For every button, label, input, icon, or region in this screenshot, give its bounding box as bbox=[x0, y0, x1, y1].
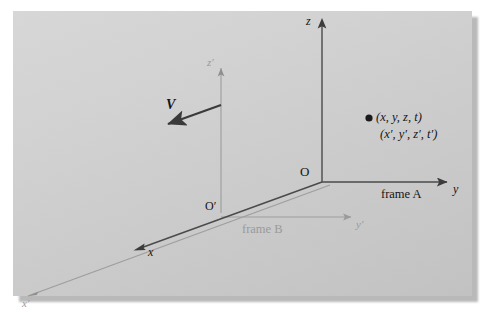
frame-b-axes bbox=[28, 68, 351, 296]
event-coords-frame-b: (x′, y′, z′, t′) bbox=[380, 128, 437, 141]
frame-a-origin-label: O bbox=[300, 165, 309, 178]
z-prime-axis-label: z′ bbox=[207, 57, 214, 68]
frame-a-name-label: frame A bbox=[381, 188, 422, 201]
event-coords-frame-a: (x, y, z, t) bbox=[376, 111, 422, 124]
x-prime-axis-line bbox=[28, 185, 330, 296]
y-prime-axis-label: y′ bbox=[356, 219, 363, 230]
frame-b-name-label: frame B bbox=[242, 223, 283, 236]
z-axis-label: z bbox=[306, 15, 311, 27]
y-axis-label: y bbox=[453, 183, 458, 195]
frame-b-origin-label: O′ bbox=[205, 200, 216, 212]
figure-root: z y x O frame A z′ y′ x′ O′ frame B V (x… bbox=[0, 0, 493, 320]
x-prime-axis-label: x′ bbox=[22, 298, 29, 309]
diagram-vector-layer bbox=[0, 0, 493, 320]
velocity-label: V bbox=[166, 98, 175, 112]
event-point-marker bbox=[365, 114, 372, 121]
x-axis-label: x bbox=[148, 246, 153, 258]
velocity-arrow-line bbox=[168, 105, 221, 124]
velocity-vector bbox=[168, 105, 221, 124]
x-axis-line bbox=[138, 182, 322, 249]
